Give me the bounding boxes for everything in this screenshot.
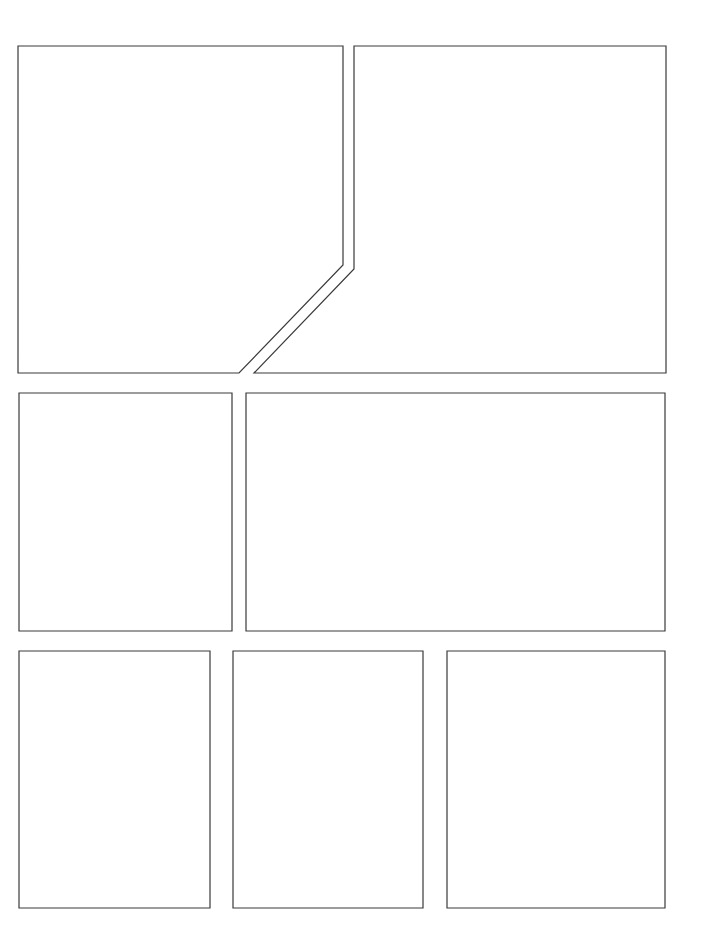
panel-1: [18, 46, 343, 373]
panel-3: [19, 393, 232, 631]
panel-6: [233, 651, 423, 908]
panel-5: [19, 651, 210, 908]
panel-4: [246, 393, 665, 631]
comic-page: [0, 0, 701, 951]
panel-7: [447, 651, 665, 908]
